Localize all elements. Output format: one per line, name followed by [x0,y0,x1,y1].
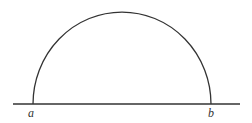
label-b: b [208,106,214,120]
semicircle-arc [33,12,211,104]
label-a: a [28,106,34,120]
semicircle-diagram: a b [0,0,252,123]
